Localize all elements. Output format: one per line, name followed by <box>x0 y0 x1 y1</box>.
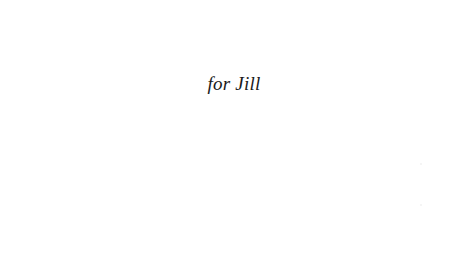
dedication-text: for Jill <box>0 73 468 95</box>
scan-speck <box>420 204 422 206</box>
dedication-page: for Jill <box>0 0 468 269</box>
scan-speck <box>420 163 422 165</box>
